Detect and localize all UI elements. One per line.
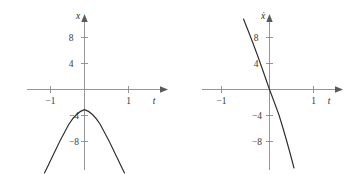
left-plot-x-axis-label: t — [153, 96, 156, 106]
left-plot-ytick-label-neg4: −4 — [69, 111, 79, 121]
left-plot-ytick-label-8: 8 — [69, 33, 74, 43]
right-plot-x-axis-arrow-icon — [335, 86, 343, 92]
right-plot-ytick-label-4: 4 — [254, 59, 259, 69]
left-plot-xtick-label-1: 1 — [126, 96, 131, 106]
right-plot-xtick-label-neg1: −1 — [216, 96, 226, 106]
right-plot-x-axis-label: t — [328, 96, 331, 106]
right-plot-ytick-label-neg8: −8 — [252, 137, 262, 147]
right-plot-y-axis-arrow-icon — [266, 14, 272, 22]
left-plot-ytick-label-4: 4 — [69, 59, 74, 69]
left-plot-y-axis-label: x — [75, 11, 81, 21]
right-plot-ytick-label-8: 8 — [254, 33, 259, 43]
left-plot-ytick-label-neg8: −8 — [69, 137, 79, 147]
right-plot: 8 4 −4 −8 −1 1 ẋ t — [202, 11, 343, 170]
left-plot-xtick-label-neg1: −1 — [45, 96, 55, 106]
left-plot-y-axis-arrow-icon — [81, 14, 87, 22]
left-plot-x-axis-arrow-icon — [160, 86, 168, 92]
left-plot: 8 4 −4 −8 −1 1 x t — [27, 11, 168, 173]
right-plot-y-axis-label: ẋ — [260, 11, 266, 21]
right-plot-ytick-label-neg4: −4 — [252, 111, 262, 121]
right-plot-xtick-label-1: 1 — [311, 96, 316, 106]
two-plot-figure: 8 4 −4 −8 −1 1 x t 8 4 −4 −8 −1 1 — [0, 0, 353, 174]
